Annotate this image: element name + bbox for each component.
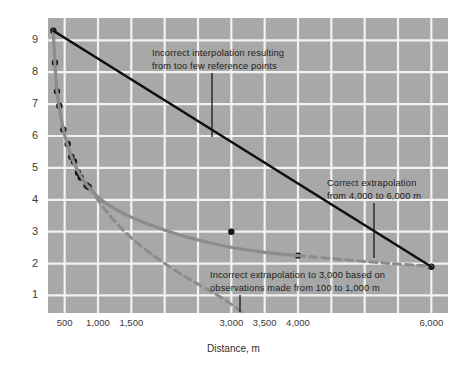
x-tick-label: 6,000 [401,318,461,328]
y-tick-label: 9 [18,34,38,45]
y-tick-label: 2 [18,258,38,269]
x-tick-label: 1,500 [101,318,161,328]
incorrect-extrapolation-note: Incorrect extrapolation to 3,000 based o… [210,269,385,294]
y-tick-label: 4 [18,194,38,205]
y-tick-label: 7 [18,98,38,109]
data-point [228,228,234,234]
y-tick-label: 5 [18,162,38,173]
incorrect-interpolation-note: Incorrect interpolation resultingfrom to… [152,47,284,72]
y-tick-label: 8 [18,66,38,77]
correct-extrapolation-note-line1: Correct extrapolation [327,177,421,190]
incorrect-interpolation-note-line1: Incorrect interpolation resulting [152,47,284,60]
y-tick-label: 1 [18,289,38,300]
x-tick-label: 4,000 [268,318,328,328]
incorrect-interpolation-note-line2: from too few reference points [152,60,284,73]
incorrect-extrapolation-note-line1: Incorrect extrapolation to 3,000 based o… [210,269,385,282]
correct-extrapolation-note-line2: from 4,000 to 6,000 m [327,190,421,203]
y-tick-label: 6 [18,130,38,141]
incorrect-extrapolation-note-line2: observations made from 100 to 1,000 m [210,282,385,295]
correct-extrapolation-note: Correct extrapolationfrom 4,000 to 6,000… [327,177,421,202]
y-tick-label: 3 [18,226,38,237]
x-axis-title: Distance, m [0,343,467,354]
